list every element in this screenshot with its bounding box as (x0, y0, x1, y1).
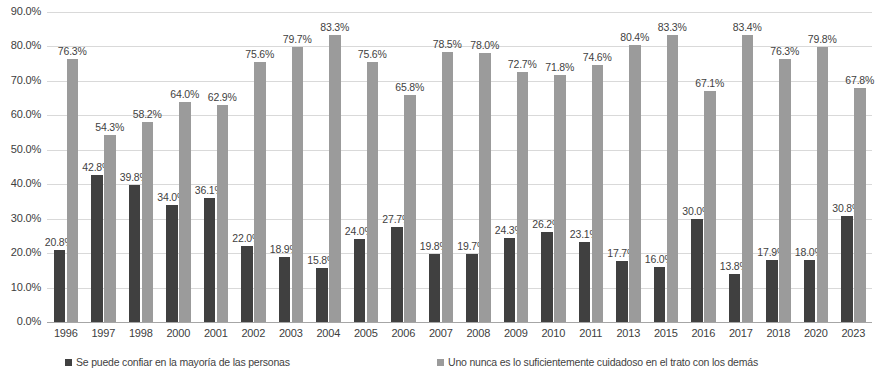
bar-cuidadoso[interactable] (742, 35, 754, 322)
bar-cuidadoso[interactable] (779, 59, 791, 322)
x-axis-tick-label: 2011 (572, 326, 610, 340)
x-axis-tick-label: 1998 (122, 326, 160, 340)
y-axis: 0.0%10.0%20.0%30.0%40.0%50.0%60.0%70.0%8… (0, 0, 47, 334)
bar-group: 42.8%54.3% (85, 12, 123, 322)
bar-group: 27.7%65.8% (385, 12, 423, 322)
bar-cuidadoso[interactable] (629, 45, 641, 322)
bar-cuidadoso[interactable] (554, 75, 566, 322)
legend-label: Se puede confiar en la mayoría de las pe… (76, 356, 290, 368)
bar-chart: 0.0%10.0%20.0%30.0%40.0%50.0%60.0%70.0%8… (0, 0, 880, 378)
bar-confia[interactable] (91, 175, 103, 322)
bar-cuidadoso[interactable] (442, 52, 454, 322)
bar-group: 24.0%75.6% (347, 12, 385, 322)
bar-confia[interactable] (729, 274, 741, 322)
y-axis-tick-label: 90.0% (11, 6, 41, 17)
bar-confia[interactable] (129, 185, 141, 322)
bar-cuidadoso[interactable] (704, 91, 716, 322)
bar-cuidadoso[interactable] (179, 102, 191, 322)
bar-confia[interactable] (241, 246, 253, 322)
x-axis-tick-label: 2013 (610, 326, 648, 340)
x-axis-tick-label: 2003 (272, 326, 310, 340)
bar-group: 18.0%79.8% (797, 12, 835, 322)
bar-confia[interactable] (466, 254, 478, 322)
bar-value-label: 67.8% (843, 75, 877, 86)
bar-group: 19.7%78.0% (460, 12, 498, 322)
bar-confia[interactable] (54, 250, 66, 322)
bar-confia[interactable] (354, 239, 366, 322)
bar-confia[interactable] (654, 267, 666, 322)
bar-group: 39.8%58.2% (122, 12, 160, 322)
bar-cuidadoso[interactable] (67, 59, 79, 322)
bar-group: 30.8%67.8% (835, 12, 873, 322)
bar-cuidadoso[interactable] (292, 47, 304, 322)
bar-group: 17.7%80.4% (610, 12, 648, 322)
bar-cuidadoso[interactable] (329, 35, 341, 322)
bar-confia[interactable] (841, 216, 853, 322)
x-axis-tick-label: 2008 (460, 326, 498, 340)
bar-cuidadoso[interactable] (517, 72, 529, 322)
x-axis-tick-label: 2009 (497, 326, 535, 340)
bar-cuidadoso[interactable] (404, 95, 416, 322)
bar-confia[interactable] (279, 257, 291, 322)
legend-label: Uno nunca es lo suficientemente cuidados… (448, 356, 758, 368)
x-axis-line (47, 322, 872, 323)
x-axis-tick-label: 2004 (310, 326, 348, 340)
bar-confia[interactable] (579, 242, 591, 322)
bar-confia[interactable] (429, 254, 441, 322)
legend-item[interactable]: Uno nunca es lo suficientemente cuidados… (437, 356, 758, 368)
y-axis-tick-label: 10.0% (11, 282, 41, 293)
bar-cuidadoso[interactable] (217, 105, 229, 322)
bar-group: 23.1%74.6% (572, 12, 610, 322)
bar-cuidadoso[interactable] (592, 65, 604, 322)
bar-group: 15.8%83.3% (310, 12, 348, 322)
bar-group: 17.9%76.3% (760, 12, 798, 322)
bar-cuidadoso[interactable] (367, 62, 379, 322)
y-axis-tick-label: 60.0% (11, 109, 41, 120)
bar-confia[interactable] (316, 268, 328, 322)
x-axis-tick-label: 2016 (685, 326, 723, 340)
y-axis-tick-label: 30.0% (11, 213, 41, 224)
bar-cuidadoso[interactable] (479, 53, 491, 322)
y-axis-tick-label: 20.0% (11, 247, 41, 258)
x-axis-tick-label: 2006 (385, 326, 423, 340)
bar-group: 19.8%78.5% (422, 12, 460, 322)
x-axis-tick-label: 2007 (422, 326, 460, 340)
chart-legend: Se puede confiar en la mayoría de las pe… (0, 356, 880, 372)
x-axis-tick-label: 2002 (235, 326, 273, 340)
x-axis-tick-label: 2001 (197, 326, 235, 340)
bar-group: 18.9%79.7% (272, 12, 310, 322)
plot-area: 20.8%76.3%42.8%54.3%39.8%58.2%34.0%64.0%… (47, 12, 872, 322)
bar-group: 16.0%83.3% (647, 12, 685, 322)
bars-layer: 20.8%76.3%42.8%54.3%39.8%58.2%34.0%64.0%… (47, 12, 872, 322)
bar-confia[interactable] (804, 260, 816, 322)
legend-swatch-icon (65, 359, 72, 366)
bar-cuidadoso[interactable] (667, 35, 679, 322)
x-axis-tick-label: 2023 (835, 326, 873, 340)
x-axis-tick-label: 2010 (535, 326, 573, 340)
bar-cuidadoso[interactable] (142, 122, 154, 322)
bar-confia[interactable] (541, 232, 553, 322)
bar-cuidadoso[interactable] (254, 62, 266, 322)
bar-confia[interactable] (766, 260, 778, 322)
x-axis-tick-label: 2000 (160, 326, 198, 340)
y-axis-tick-label: 0.0% (17, 316, 41, 327)
bar-group: 13.8%83.4% (722, 12, 760, 322)
x-axis-tick-label: 2020 (797, 326, 835, 340)
legend-item[interactable]: Se puede confiar en la mayoría de las pe… (65, 356, 290, 368)
x-axis-tick-label: 2017 (722, 326, 760, 340)
bar-cuidadoso[interactable] (817, 47, 829, 322)
y-axis-tick-label: 40.0% (11, 178, 41, 189)
bar-confia[interactable] (504, 238, 516, 322)
bar-cuidadoso[interactable] (104, 135, 116, 322)
bar-confia[interactable] (691, 219, 703, 322)
x-axis-tick-label: 2015 (647, 326, 685, 340)
bar-cuidadoso[interactable] (854, 88, 866, 322)
bar-confia[interactable] (391, 227, 403, 322)
x-axis: 1996199719982000200120022003200420052006… (47, 326, 872, 346)
bar-confia[interactable] (204, 198, 216, 322)
x-axis-tick-label: 2018 (760, 326, 798, 340)
bar-group: 24.3%72.7% (497, 12, 535, 322)
legend-swatch-icon (437, 359, 444, 366)
bar-confia[interactable] (616, 261, 628, 322)
bar-confia[interactable] (166, 205, 178, 322)
